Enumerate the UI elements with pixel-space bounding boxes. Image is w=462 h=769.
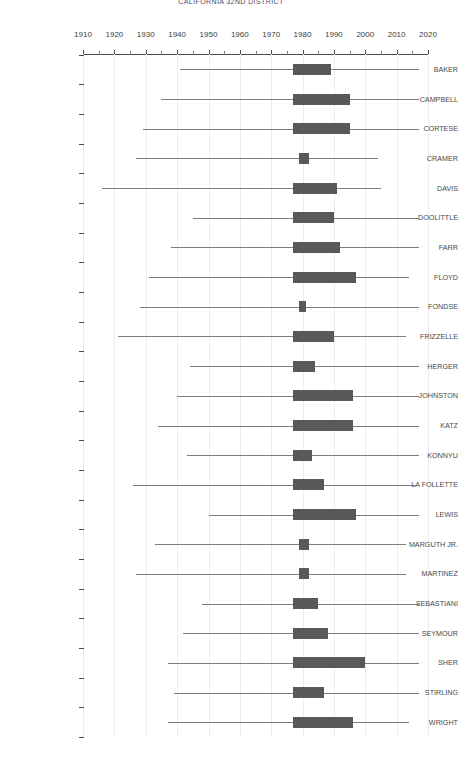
y-axis-tick [79, 707, 84, 708]
range-box[interactable] [299, 568, 308, 579]
range-box[interactable] [293, 212, 334, 223]
y-axis-tick [79, 589, 84, 590]
y-axis-tick [79, 648, 84, 649]
range-whisker [118, 336, 407, 337]
y-axis-tick [79, 529, 84, 530]
range-whisker [140, 307, 419, 308]
range-whisker [143, 129, 419, 130]
range-whisker [136, 574, 406, 575]
y-axis-tick [79, 559, 84, 560]
y-axis-tick [79, 737, 84, 738]
y-axis-tick [79, 381, 84, 382]
range-box[interactable] [293, 420, 353, 431]
range-box[interactable] [299, 539, 308, 550]
y-axis-tick [79, 470, 84, 471]
y-axis-tick [79, 144, 84, 145]
range-whisker [149, 277, 409, 278]
range-box[interactable] [293, 390, 353, 401]
range-whisker [155, 544, 406, 545]
range-box[interactable] [293, 123, 350, 134]
range-whisker [168, 722, 410, 723]
range-box[interactable] [293, 628, 328, 639]
y-axis-tick [79, 55, 84, 56]
range-whisker [102, 188, 381, 189]
range-whisker [158, 426, 418, 427]
range-box[interactable] [299, 153, 308, 164]
range-box[interactable] [293, 183, 337, 194]
y-axis-tick [79, 203, 84, 204]
range-box[interactable] [293, 272, 356, 283]
range-box[interactable] [293, 598, 318, 609]
range-box[interactable] [293, 657, 365, 668]
y-axis-tick [79, 84, 84, 85]
range-box[interactable] [293, 687, 324, 698]
range-box[interactable] [293, 361, 315, 372]
range-box[interactable] [293, 509, 356, 520]
y-axis-category-label: DAVIS [384, 184, 462, 193]
range-box[interactable] [293, 64, 331, 75]
y-axis-tick [79, 440, 84, 441]
x-axis-tick-label: 2020 [408, 30, 448, 39]
range-box[interactable] [293, 242, 340, 253]
range-whisker [161, 99, 418, 100]
y-axis-tick [79, 173, 84, 174]
range-box[interactable] [293, 479, 324, 490]
y-axis-tick [79, 351, 84, 352]
range-box[interactable] [293, 717, 353, 728]
y-axis-tick [79, 262, 84, 263]
range-box[interactable] [293, 331, 334, 342]
chart-page: CALIFORNIA 32ND DISTRICT 191019201930194… [0, 0, 462, 769]
y-axis-tick [79, 292, 84, 293]
range-box[interactable] [299, 301, 305, 312]
y-axis-category-label: CRAMER [384, 154, 462, 163]
range-whisker [136, 158, 378, 159]
y-axis-tick [79, 618, 84, 619]
y-axis-tick [79, 500, 84, 501]
y-axis-tick [79, 411, 84, 412]
y-axis-tick [79, 233, 84, 234]
plot-area: 1910192019301940195019601970198019902000… [0, 0, 462, 769]
range-whisker [133, 485, 418, 486]
range-box[interactable] [293, 94, 350, 105]
y-axis-tick [79, 322, 84, 323]
range-box[interactable] [293, 450, 312, 461]
y-axis-tick [79, 678, 84, 679]
y-axis-tick [79, 114, 84, 115]
